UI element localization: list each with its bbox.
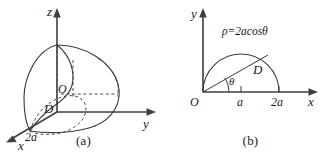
y-axis-label: y: [141, 116, 149, 131]
caption-b: (b): [167, 133, 334, 149]
y-axis-arrowhead: [147, 108, 157, 116]
region-label-d-b: D: [252, 62, 263, 77]
z-axis-label: z: [46, 4, 52, 19]
caption-a: (a): [0, 133, 167, 149]
figure-pair: z y x O 2a D (a): [0, 0, 334, 157]
tick-label-2a: 2a: [271, 95, 283, 109]
region-label-d-a: D: [43, 101, 54, 116]
tick-label-a: a: [237, 95, 243, 109]
origin-label-a: O: [58, 82, 67, 96]
origin-label-b: O: [190, 95, 199, 109]
z-axis-arrowhead: [53, 8, 61, 18]
y-axis-label-b: y: [189, 6, 197, 21]
x-axis-b: [203, 88, 318, 96]
solid-front-rim: [30, 126, 95, 133]
y-axis: [57, 108, 156, 116]
y-axis-b: [199, 8, 207, 92]
region-d-projection-dashed: [30, 96, 86, 135]
figure-panel-b: y x O a 2a ρ=2acosθ θ D (b): [167, 0, 334, 157]
curve-equation-label: ρ=2acosθ: [221, 25, 268, 38]
y-axis-arrowhead-b: [199, 8, 207, 18]
theta-angle-label: θ: [229, 75, 235, 87]
x-axis-label-b: x: [307, 94, 314, 109]
figure-panel-a: z y x O 2a D (a): [0, 0, 167, 157]
